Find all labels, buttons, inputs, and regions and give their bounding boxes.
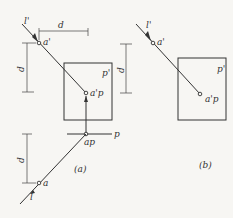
label-p-prime-b: p' xyxy=(217,64,225,74)
arrow-up-icon xyxy=(84,96,88,102)
label-a-prime-p-b: a'p xyxy=(205,94,219,104)
label-dim-d-b: d xyxy=(116,67,126,73)
figure-a: l' a' d d p' a'p p ap a l xyxy=(16,16,120,204)
point-a-prime-p-b xyxy=(198,92,202,96)
label-l: l xyxy=(30,192,33,202)
caption-b: (b) xyxy=(199,160,212,170)
label-a: a xyxy=(43,178,48,188)
label-dim-d-horizontal: d xyxy=(58,20,64,30)
point-a-prime-b xyxy=(151,41,155,45)
label-a-prime-p: a'p xyxy=(90,88,104,98)
figure-b: l' a' d p' a'p (b) xyxy=(116,20,226,170)
caption-a: (a) xyxy=(74,164,87,174)
label-l-prime: l' xyxy=(24,16,29,26)
line-l-prime xyxy=(22,24,86,93)
label-p-prime: p' xyxy=(102,68,110,78)
arrow-l-prime-icon xyxy=(32,33,38,42)
point-a xyxy=(37,181,41,185)
label-l-prime-b: l' xyxy=(146,20,151,30)
label-a-prime: a' xyxy=(43,37,51,47)
label-ap: ap xyxy=(84,137,95,147)
label-a-prime-b: a' xyxy=(157,37,165,47)
point-a-prime-p xyxy=(84,91,88,95)
label-dim-d-upper: d xyxy=(16,66,26,72)
point-a-prime xyxy=(37,41,41,45)
projection-diagram: l' a' d d p' a'p p ap a l xyxy=(0,0,233,218)
label-p: p xyxy=(114,129,120,139)
arrow-l-prime-b-icon xyxy=(145,31,151,41)
label-dim-d-lower: d xyxy=(16,157,26,163)
